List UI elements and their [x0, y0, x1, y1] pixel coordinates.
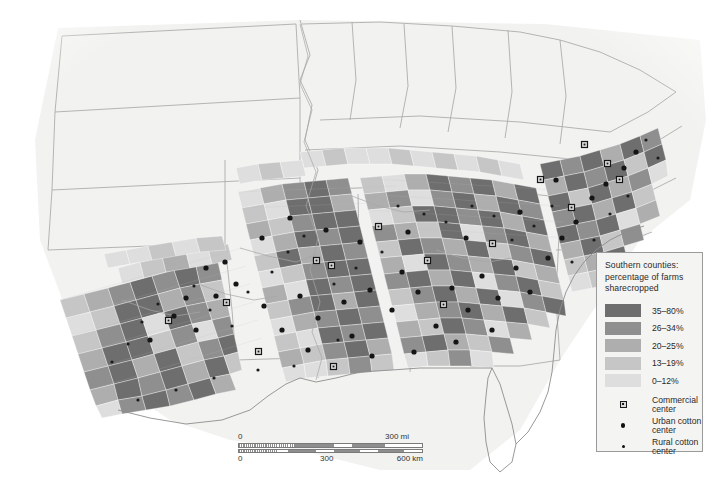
legend-label-20-25: 20–25% [652, 341, 684, 351]
scale-bar: 0 300 mi 0 300 600 km [238, 432, 423, 465]
legend-title-line-3: sharecropped [605, 283, 696, 295]
legend-label-commercial-line-2: center [652, 405, 698, 415]
scale-track-miles [238, 443, 423, 448]
legend-label-35-80: 35–80% [652, 306, 684, 316]
scale-track-km [238, 449, 423, 454]
legend-title-line-1: Southern counties: [605, 260, 696, 272]
legend-title: Southern counties: percentage of farms s… [605, 260, 696, 295]
rural-cotton-center-icon [605, 438, 641, 453]
scale-km-end: 600 km [397, 454, 423, 463]
scale-km-mid: 300 [320, 454, 333, 463]
legend-label-urban-line-2: center [652, 426, 701, 436]
legend-swatch-13-19 [605, 357, 641, 370]
map-legend: Southern counties: percentage of farms s… [596, 252, 703, 452]
legend-swatch-20-25 [605, 339, 641, 352]
legend-label-26-34: 26–34% [652, 323, 684, 333]
legend-class-row: 20–25% [605, 337, 696, 355]
legend-swatch-0-12 [605, 374, 641, 387]
legend-symbol-row-urban: Urban cotton center [605, 417, 696, 438]
legend-label-rural-line-2: center [652, 447, 698, 457]
legend-class-row: 26–34% [605, 319, 696, 337]
map-root: 0 300 mi 0 300 600 km Southern counties:… [0, 0, 715, 502]
legend-label-13-19: 13–19% [652, 358, 684, 368]
legend-swatch-26-34 [605, 322, 641, 335]
legend-label-rural: Rural cotton center [652, 438, 698, 457]
scale-km-start: 0 [238, 454, 242, 463]
legend-symbol-row-commercial: Commercial center [605, 396, 696, 417]
legend-title-line-2: percentage of farms [605, 272, 696, 284]
legend-symbol-row-rural: Rural cotton center [605, 438, 696, 459]
legend-label-commercial: Commercial center [652, 396, 698, 415]
scale-bar-km-labels: 0 300 600 km [238, 454, 423, 465]
commercial-center-icon [605, 396, 641, 411]
scale-miles-end: 300 mi [385, 432, 409, 441]
legend-label-urban: Urban cotton center [652, 417, 701, 436]
legend-class-row: 13–19% [605, 355, 696, 373]
scale-bar-miles-labels: 0 300 mi [238, 432, 423, 443]
legend-label-0-12: 0–12% [652, 376, 679, 386]
urban-cotton-center-icon [605, 417, 641, 432]
legend-class-row: 0–12% [605, 372, 696, 390]
scale-miles-start: 0 [238, 432, 242, 441]
legend-swatch-35-80 [605, 304, 641, 317]
legend-class-row: 35–80% [605, 302, 696, 320]
